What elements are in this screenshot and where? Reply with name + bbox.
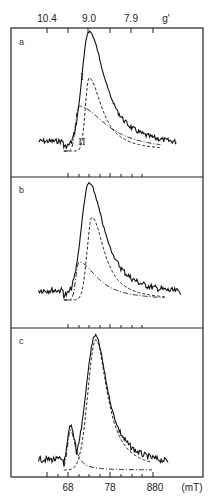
bottom-tick-label-78: 78: [104, 482, 116, 493]
top-tick-label-9-0: 9.0: [82, 13, 96, 24]
experimental-trace-c: [39, 335, 168, 466]
component-2-curve-b: [64, 262, 165, 300]
experimental-trace-b: [39, 183, 181, 299]
top-tick-label-7-9: 7.9: [124, 13, 138, 24]
experimental-trace-a: [39, 31, 177, 149]
top-axis-label-g-prime: g': [162, 13, 170, 24]
top-axis-ticks: [47, 28, 153, 33]
spectra-figure: 10.4 9.0 7.9 g' 68 78 880 (mT) a b c I I…: [0, 0, 213, 500]
panel-label-b: b: [19, 185, 24, 195]
bottom-axis-unit: (mT): [181, 482, 202, 493]
spectra-curves: [39, 31, 181, 470]
bottom-tick-label-88: 880: [147, 482, 164, 493]
figure-frame: [11, 28, 203, 477]
bottom-tick-label-68: 68: [62, 482, 74, 493]
panel-label-c: c: [19, 336, 24, 346]
component-label-II: II: [78, 135, 86, 147]
bottom-axis-ticks: [47, 472, 153, 477]
top-tick-label-10-4: 10.4: [37, 13, 57, 24]
panel-label-a: a: [19, 37, 24, 47]
